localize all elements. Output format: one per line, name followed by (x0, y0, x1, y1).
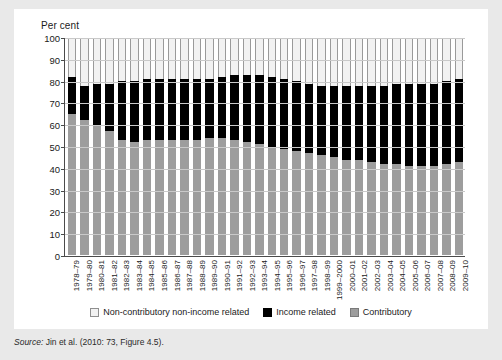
bar-segment-income-related (305, 84, 313, 153)
bar-segment-income-related (367, 86, 375, 162)
y-axis-tick (61, 38, 65, 39)
y-axis-tick (61, 169, 65, 170)
y-axis-tick (61, 147, 65, 148)
bar-segment-income-related (280, 79, 288, 148)
bar-segment-non-contributory (143, 38, 151, 79)
bar-segment-contributory (292, 151, 300, 255)
x-axis-label-slot: 1983–84 (127, 259, 140, 303)
legend-label: Income related (276, 307, 336, 317)
bar-segment-non-contributory (218, 38, 226, 77)
legend-item: Non-contributory non-income related (90, 307, 249, 317)
x-axis-label-slot: 1987–88 (177, 259, 190, 303)
legend-item: Income related (263, 307, 336, 317)
x-axis-label-slot: 1993–94 (252, 259, 265, 303)
x-axis-label-slot: 2009–10 (452, 259, 465, 303)
bar-segment-non-contributory (93, 38, 101, 84)
bar-segment-contributory (455, 162, 463, 255)
bar-segment-non-contributory (193, 38, 201, 79)
x-axis-label-slot: 1989–90 (202, 259, 215, 303)
x-axis-label-slot: 2000–01 (340, 259, 353, 303)
bar-segment-non-contributory (155, 38, 163, 79)
source-text: Jin et al. (2010: 73, Figure 4.5). (43, 337, 163, 347)
legend-label: Contributory (363, 307, 412, 317)
bar-segment-contributory (405, 166, 413, 255)
y-axis-tick-label: 20 (49, 207, 60, 218)
bar-segment-income-related (255, 75, 263, 144)
bar-segment-income-related (118, 81, 126, 140)
bar-segment-contributory (367, 162, 375, 255)
x-axis-label-slot: 2007–08 (427, 259, 440, 303)
bar-segment-contributory (193, 140, 201, 255)
bar-segment-income-related (218, 77, 226, 138)
bar-segment-income-related (317, 86, 325, 155)
bar-segment-contributory (143, 140, 151, 255)
gridline (65, 125, 465, 126)
bar-segment-non-contributory (80, 38, 88, 86)
bar-segment-contributory (255, 144, 263, 255)
chart-figure: Per cent 1009080706050403020100 1978–791… (0, 0, 502, 360)
y-axis-tick-label: 90 (49, 54, 60, 65)
y-axis-tick-label: 40 (49, 163, 60, 174)
bar-segment-contributory (330, 157, 338, 255)
bar-segment-non-contributory (392, 38, 400, 84)
bar-segment-contributory (442, 164, 450, 255)
plot-area (64, 38, 465, 257)
y-axis-tick-label: 60 (49, 120, 60, 131)
gridline (65, 38, 465, 39)
x-axis-label-slot: 1997–98 (302, 259, 315, 303)
plot-area-wrapper: 1009080706050403020100 (41, 38, 465, 257)
source-prefix: Source: (14, 337, 43, 347)
x-axis-label-slot: 2004–05 (390, 259, 403, 303)
x-axis-label-slot: 1985–86 (152, 259, 165, 303)
y-axis-tick-label: 100 (44, 33, 60, 44)
y-axis-tick-label: 80 (49, 76, 60, 87)
bar-segment-income-related (230, 75, 238, 140)
bar-segment-contributory (280, 149, 288, 255)
x-axis-label-slot: 2003–04 (377, 259, 390, 303)
bar-segment-contributory (130, 142, 138, 255)
y-axis-tick (61, 256, 65, 257)
y-axis-tick (61, 125, 65, 126)
bar-segment-income-related (143, 79, 151, 140)
bar-segment-income-related (193, 79, 201, 140)
x-axis-label-slot: 1984–85 (139, 259, 152, 303)
bar-segment-contributory (155, 140, 163, 255)
bar-segment-contributory (430, 166, 438, 255)
gridline (65, 212, 465, 213)
x-axis-label-slot: 1981–82 (102, 259, 115, 303)
y-axis-tick-label: 10 (49, 229, 60, 240)
bar-segment-income-related (105, 84, 113, 132)
bar-segment-contributory (230, 140, 238, 255)
legend-swatch-grey (350, 308, 359, 317)
x-axis-label-slot: 1982–83 (114, 259, 127, 303)
bar-segment-non-contributory (280, 38, 288, 79)
chart-panel: Per cent 1009080706050403020100 1978–791… (14, 9, 488, 329)
bar-segment-contributory (268, 147, 276, 256)
bar-segment-contributory (205, 138, 213, 255)
x-axis-label-slot: 2002–03 (365, 259, 378, 303)
x-axis-label-slot: 1994–95 (265, 259, 278, 303)
y-axis-tick (61, 191, 65, 192)
bar-segment-non-contributory (417, 38, 425, 84)
bar-segment-non-contributory (268, 38, 276, 77)
bar-segment-non-contributory (367, 38, 375, 86)
bar-segment-income-related (68, 77, 76, 114)
bar-segment-income-related (130, 81, 138, 142)
y-axis-tick-label: 0 (55, 251, 60, 262)
x-axis-label-slot: 1990–91 (214, 259, 227, 303)
bar-segment-contributory (105, 131, 113, 255)
bar-segment-contributory (317, 155, 325, 255)
x-axis-label-slot: 1980–81 (89, 259, 102, 303)
bar-segment-contributory (392, 164, 400, 255)
bar-segment-income-related (355, 86, 363, 160)
y-axis-tick (61, 234, 65, 235)
bar-segment-contributory (380, 164, 388, 255)
legend-swatch-black (263, 308, 272, 317)
bar-segment-income-related (180, 79, 188, 140)
bar-segment-income-related (155, 79, 163, 140)
x-axis-label-slot: 1991–92 (227, 259, 240, 303)
bar-segment-non-contributory (68, 38, 76, 77)
y-axis-tick (61, 82, 65, 83)
y-axis-tick (61, 212, 65, 213)
gridline (65, 103, 465, 104)
